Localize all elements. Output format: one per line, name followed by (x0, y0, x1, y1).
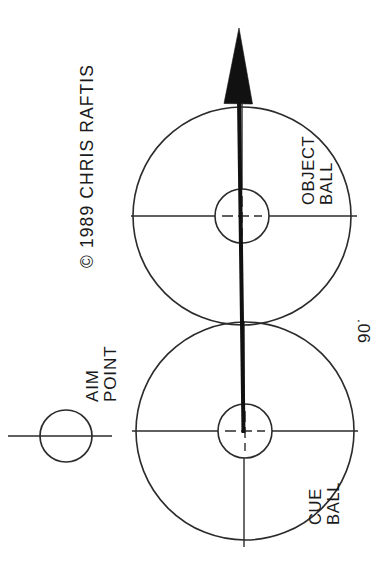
angle-label: 90˙ (356, 317, 374, 343)
object-ball-label-line1: OBJECT (299, 136, 317, 205)
object-ball-label-line2: BALL (318, 136, 336, 205)
cue-ball-label-line1: CUE (306, 488, 324, 525)
copyright-label: © 1989 CHRIS RAFTIS (78, 64, 97, 268)
cue-ball-label-line2: BALL (325, 482, 343, 525)
aim-point-label-line2: POINT (102, 346, 120, 402)
aim-point-label-line1: AIM (83, 369, 102, 402)
aim-point-label: AIMPOINT (84, 346, 121, 402)
cue-ball-label: CUEBALL (307, 482, 343, 525)
aim-point-group (8, 410, 112, 462)
object-ball-label: OBJECTBALL (300, 136, 336, 205)
shot-direction-arrowhead (224, 28, 253, 104)
shot-direction-line (239, 100, 244, 433)
diagram-canvas: © 1989 CHRIS RAFTIS AIMPOINT OBJECTBALL … (0, 0, 379, 580)
